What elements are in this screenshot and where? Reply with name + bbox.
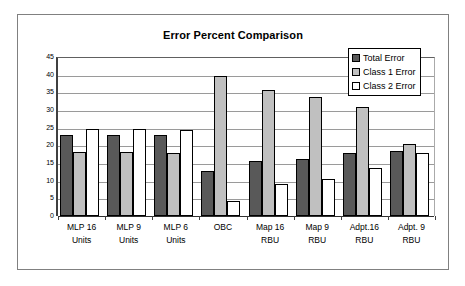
bar[interactable] [275,184,288,216]
bar[interactable] [180,130,193,216]
bar[interactable] [214,76,227,216]
legend-item[interactable]: Class 2 Error [352,79,416,93]
bar-group [58,57,105,216]
legend-swatch-white [352,82,360,90]
bar[interactable] [120,152,133,216]
y-axis-tick-label: 10 [34,177,54,185]
x-axis-tick-mark [341,216,342,220]
x-axis-ticks [58,216,435,220]
bar[interactable] [403,144,416,216]
x-axis-label-line1: Map 16 [256,222,284,232]
x-axis-label-line2: Units [152,234,199,247]
x-axis-label-line1: MLP 16 [67,222,96,232]
x-axis-tick-mark [58,216,59,220]
bar[interactable] [154,135,167,216]
x-axis-label-line2: Units [105,234,152,247]
x-axis-category-label: OBC [199,221,246,234]
legend-item-label: Class 1 Error [363,67,416,77]
chart-legend: Total ErrorClass 1 ErrorClass 2 Error [348,48,421,96]
bar[interactable] [390,151,403,216]
x-axis-category-label: MLP 9Units [105,221,152,247]
bar[interactable] [227,201,240,216]
x-axis-tick-mark [199,216,200,220]
bar-group [247,57,294,216]
bar[interactable] [201,171,214,216]
x-axis-tick-mark [294,216,295,220]
y-axis-tick-label: 45 [34,53,54,61]
bar-group [105,57,152,216]
bar[interactable] [262,90,275,216]
bar[interactable] [322,179,335,216]
y-axis-tick-label: 35 [34,88,54,96]
legend-item-label: Class 2 Error [363,81,416,91]
chart-title: Error Percent Comparison [18,29,448,41]
x-axis-category-label: MLP 16Units [58,221,105,247]
bar-group [199,57,246,216]
x-axis-category-label: MLP 6Units [152,221,199,247]
x-axis-category-label: Adpt. 9RBU [388,221,435,247]
y-axis: 051015202530354045 [34,51,54,222]
x-axis-label-line1: Adpt.16 [350,222,379,232]
bar[interactable] [60,135,73,216]
x-axis-label-line1: MLP 9 [116,222,140,232]
x-axis-label-line1: Adpt. 9 [398,222,425,232]
bar[interactable] [309,97,322,216]
x-axis-tick-mark [435,216,436,220]
bar[interactable] [296,159,309,216]
bar[interactable] [416,153,429,216]
y-axis-tick-label: 5 [34,194,54,202]
x-axis-tick-mark [105,216,106,220]
y-axis-tick-label: 30 [34,106,54,114]
legend-swatch-light-gray [352,68,360,76]
x-axis-category-label: Adpt.16RBU [341,221,388,247]
bar[interactable] [369,168,382,216]
legend-item[interactable]: Class 1 Error [352,65,416,79]
x-axis-label-line2: RBU [341,234,388,247]
x-axis-label-line1: MLP 6 [164,222,188,232]
bar[interactable] [167,153,180,216]
bar[interactable] [86,129,99,216]
x-axis-label-line2: Units [58,234,105,247]
y-axis-tick-label: 20 [34,141,54,149]
x-axis-label-line2: RBU [247,234,294,247]
bar[interactable] [343,153,356,216]
x-axis-label-line1: OBC [214,222,232,232]
x-axis: MLP 16UnitsMLP 9UnitsMLP 6UnitsOBCMap 16… [56,221,437,261]
bar[interactable] [356,107,369,216]
legend-item-label: Total Error [363,53,405,63]
legend-item[interactable]: Total Error [352,51,416,65]
x-axis-label-line2: RBU [294,234,341,247]
x-axis-label-line1: Map 9 [305,222,329,232]
x-axis-tick-mark [152,216,153,220]
y-axis-tick-label: 40 [34,71,54,79]
y-axis-tick-label: 0 [34,212,54,220]
y-axis-tick-label: 25 [34,124,54,132]
legend-swatch-dark-gray [352,54,360,62]
bar[interactable] [249,161,262,216]
bar[interactable] [133,129,146,216]
bar[interactable] [107,135,120,216]
x-axis-label-line2: RBU [388,234,435,247]
y-axis-tick-label: 15 [34,159,54,167]
chart-frame: Error Percent Comparison 051015202530354… [17,14,449,270]
bar-group [294,57,341,216]
x-axis-tick-mark [247,216,248,220]
bar-group [152,57,199,216]
x-axis-category-label: Map 16RBU [247,221,294,247]
bar[interactable] [73,152,86,216]
x-axis-tick-mark [388,216,389,220]
x-axis-category-label: Map 9RBU [294,221,341,247]
